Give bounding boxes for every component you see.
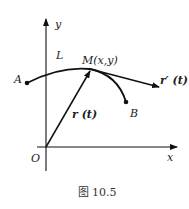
position-vector-label: r (t) [72, 108, 97, 121]
point-B-dot [124, 100, 129, 105]
x-axis-label: x [167, 151, 174, 164]
figure-caption: 图 10.5 [78, 186, 117, 199]
origin-label: O [31, 152, 40, 165]
tangent-vector [90, 69, 159, 87]
point-M-label: M(x,y) [81, 54, 118, 67]
figure-diagram: y x O L A B M(x,y) r (t) r′ (t) 图 10.5 [0, 0, 189, 209]
point-B-label: B [129, 107, 138, 120]
point-A-dot [25, 81, 30, 86]
tangent-vector-label: r′ (t) [160, 74, 188, 87]
curve-label-L: L [55, 49, 63, 62]
point-A-label: A [13, 73, 22, 86]
y-axis-label: y [54, 18, 62, 31]
curve-L [27, 69, 126, 102]
